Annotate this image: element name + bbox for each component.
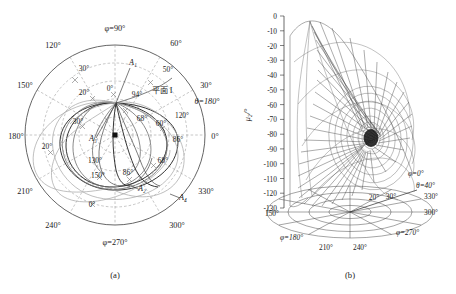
ztick-11: -110: [264, 175, 278, 184]
base-label-240: 240°: [353, 243, 367, 252]
point-label-a4: A₄: [178, 193, 187, 202]
ztick-7: -70: [267, 115, 277, 124]
inner-label-1: 30°: [79, 64, 89, 73]
azimuth-label-180: 180°: [8, 132, 24, 141]
panel-a-polar-plot: φ=90° 60° 30° 0° 330° 300° φ=270° 240° 2…: [0, 0, 228, 294]
point-label-a2: A₂: [137, 184, 146, 193]
ztick-0: 0: [273, 12, 277, 21]
figure-container: φ=90° 60° 30° 0° 330° 300° φ=270° 240° 2…: [0, 0, 456, 294]
azimuth-label-90: φ=90°: [105, 24, 126, 33]
azimuth-label-150: 150°: [17, 81, 33, 90]
base-label-phi0: φ=0°: [408, 169, 424, 178]
ztick-10: -100: [263, 160, 277, 169]
ztick-4: -40: [267, 71, 277, 80]
panel-b-surface-plot: 0 -10 -20 -30 -40 -50 -60 -70 -80 -90 -1…: [228, 0, 456, 294]
inner-label-11: 86°: [173, 135, 183, 144]
point-label-a1: A₁: [128, 58, 137, 67]
base-label-phi270: φ=270°: [396, 228, 419, 237]
inner-label-12: 68°: [158, 156, 168, 165]
base-label-theta40: θ=40°: [416, 181, 435, 190]
panel-a-svg: φ=90° 60° 30° 0° 330° 300° φ=270° 240° 2…: [0, 0, 228, 294]
ztick-8: -80: [267, 130, 277, 139]
panel-a-caption: (a): [110, 270, 120, 280]
base-label-210: 210°: [319, 243, 333, 252]
polar-origin-marker: [113, 133, 118, 138]
base-labels: φ=0° θ=40° 30° 20° 330° 300° φ=270° 240°…: [265, 169, 438, 252]
point-label-a3: A₃: [88, 134, 97, 143]
mesh-outer-rings: [294, 42, 415, 196]
polar-curve-family: [33, 78, 184, 202]
inner-label-2: 20°: [79, 88, 89, 97]
base-label-30: 30°: [386, 192, 396, 201]
singularity-core: [364, 129, 379, 147]
base-label-300: 300°: [424, 208, 438, 217]
azimuth-label-330: 330°: [198, 187, 214, 196]
ztick-5: -50: [267, 86, 277, 95]
base-label-phi180: φ=180°: [280, 233, 303, 242]
surface-mesh: [290, 21, 420, 207]
ztick-6: -60: [267, 101, 277, 110]
inner-label-16: 0°: [89, 200, 96, 209]
inner-label-7: 50°: [163, 65, 173, 74]
azimuth-label-30: 30°: [200, 81, 211, 90]
ztick-2: -20: [267, 42, 277, 51]
inner-label-14: 130°: [88, 156, 102, 165]
panel-b-caption: (b): [345, 270, 355, 280]
inner-label-9: 60°: [156, 119, 166, 128]
azimuth-label-240: 240°: [45, 221, 61, 230]
ztick-12: -120: [263, 189, 277, 198]
base-label-20: 20°: [369, 193, 379, 202]
mesh-radial-lines: [298, 22, 412, 206]
zaxis: 0 -10 -20 -30 -40 -50 -60 -70 -80 -90 -1…: [243, 12, 284, 213]
inner-label-8: 68°: [137, 114, 147, 123]
inner-label-10: 120°: [175, 111, 189, 120]
azimuth-label-60: 60°: [170, 39, 181, 48]
inner-label-6: 94°: [132, 90, 142, 99]
ztick-9: -90: [267, 145, 277, 154]
inner-label-3: 0°: [107, 84, 114, 93]
theta-180-label: θ=180°: [194, 97, 220, 106]
inner-label-13: 86°: [123, 168, 133, 177]
base-theta-axis: [350, 190, 417, 212]
ztick-3: -30: [267, 56, 277, 65]
zaxis-label: μ₂/°: [243, 108, 252, 122]
azimuth-label-210: 210°: [17, 187, 33, 196]
azimuth-label-120: 120°: [45, 41, 61, 50]
azimuth-label-0: 0°: [211, 132, 218, 141]
azimuth-label-270: φ=270°: [103, 238, 128, 247]
inner-label-4: 30°: [73, 117, 83, 126]
panel-b-svg: 0 -10 -20 -30 -40 -50 -60 -70 -80 -90 -1…: [228, 0, 456, 294]
inner-label-5: 20°: [42, 142, 52, 151]
base-label-330: 330°: [424, 192, 438, 201]
azimuth-label-300: 300°: [169, 221, 185, 230]
plane-label: 平面 I: [152, 86, 173, 95]
inner-label-15: 150°: [91, 171, 105, 180]
ztick-1: -10: [267, 27, 277, 36]
base-label-150: 150°: [265, 209, 279, 218]
